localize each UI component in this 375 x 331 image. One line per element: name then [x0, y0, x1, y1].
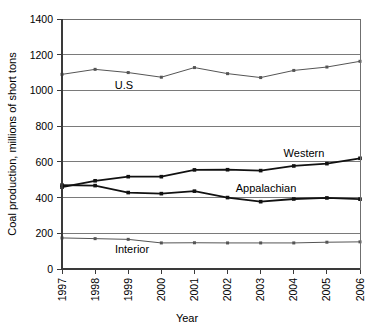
x-tick-label-2004: 2004 [287, 278, 299, 302]
x-tick-label-1999: 1999 [122, 278, 134, 302]
data-point-us-2002 [226, 72, 229, 75]
y-tick-label-1400: 1400 [30, 13, 54, 25]
data-point-interior-2002 [226, 241, 229, 244]
series-label-us: U.S [115, 79, 133, 91]
x-tick-label-2001: 2001 [188, 278, 200, 302]
data-point-us-2003 [259, 76, 262, 79]
data-point-interior-2001 [193, 241, 196, 244]
data-point-us-2004 [292, 69, 295, 72]
y-tick-label-0: 0 [47, 263, 53, 275]
data-point-interior-2005 [325, 241, 328, 244]
data-point-appalachian-1998 [93, 184, 97, 188]
data-point-appalachian-2005 [325, 196, 329, 200]
y-tick-label-1200: 1200 [30, 49, 54, 61]
data-point-interior-2004 [292, 241, 295, 244]
series-label-western: Western [284, 147, 325, 159]
data-point-interior-1999 [127, 238, 130, 241]
data-point-western-2003 [259, 169, 263, 173]
data-point-interior-2000 [160, 241, 163, 244]
data-point-us-2001 [193, 66, 196, 69]
y-tick-label-200: 200 [35, 227, 53, 239]
data-point-appalachian-2001 [193, 189, 197, 193]
x-tick-label-1997: 1997 [56, 278, 68, 302]
data-point-appalachian-1999 [126, 191, 130, 195]
data-point-western-2004 [292, 164, 296, 168]
data-point-appalachian-2003 [259, 200, 263, 204]
data-point-western-1998 [93, 179, 97, 183]
data-point-interior-2003 [259, 241, 262, 244]
x-tick-label-2000: 2000 [155, 278, 167, 302]
coal-production-line-chart: 0200400600800100012001400 19971998199920… [0, 0, 375, 331]
x-tick-label-1998: 1998 [89, 278, 101, 302]
plot-area-background [62, 19, 360, 269]
data-point-us-2000 [160, 76, 163, 79]
x-axis-title: Year [176, 312, 199, 324]
data-point-western-2001 [193, 168, 197, 172]
x-tick-label-2003: 2003 [254, 278, 266, 302]
data-point-appalachian-2000 [160, 192, 164, 196]
data-point-us-2005 [325, 66, 328, 69]
data-point-western-2000 [160, 175, 164, 179]
y-tick-label-400: 400 [35, 192, 53, 204]
x-tick-label-2005: 2005 [320, 278, 332, 302]
series-label-interior: Interior [115, 243, 150, 255]
data-point-interior-1998 [94, 237, 97, 240]
y-tick-label-1000: 1000 [30, 84, 54, 96]
series-label-appalachian: Appalachian [236, 182, 297, 194]
data-point-western-2005 [325, 162, 329, 166]
y-axis-title: Coal production, millions of short tons [6, 52, 18, 236]
data-point-western-1999 [126, 175, 130, 179]
data-point-appalachian-2004 [292, 197, 296, 201]
data-point-us-1998 [94, 68, 97, 71]
x-tick-label-2006: 2006 [354, 278, 366, 302]
x-tick-label-2002: 2002 [221, 278, 233, 302]
chart-container: 0200400600800100012001400 19971998199920… [0, 0, 375, 331]
data-point-us-1999 [127, 71, 130, 74]
y-tick-label-600: 600 [35, 156, 53, 168]
data-point-western-2002 [226, 168, 230, 172]
y-tick-label-800: 800 [35, 120, 53, 132]
data-point-appalachian-2002 [226, 196, 230, 200]
